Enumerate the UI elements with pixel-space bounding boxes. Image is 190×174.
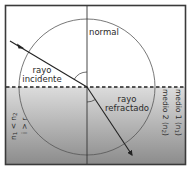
refracted-ray-label: rayo refractado xyxy=(104,95,150,113)
refracted-ray-label-line2: refractado xyxy=(104,104,150,113)
angle-relation-text: i > r xyxy=(20,118,29,134)
incident-ray-label: rayo incidente xyxy=(22,66,62,84)
incident-ray-label-line2: incidente xyxy=(22,75,62,84)
medium-2-region xyxy=(6,87,185,164)
index-relation-text: n1 < n2 xyxy=(9,112,18,140)
refraction-diagram: normal rayo incidente rayo refractado me… xyxy=(0,0,190,174)
medium-1-label: medio 1 (n1) xyxy=(174,89,183,136)
medium-2-label: medio 2 (n2) xyxy=(161,89,170,136)
normal-label: normal xyxy=(89,28,119,37)
